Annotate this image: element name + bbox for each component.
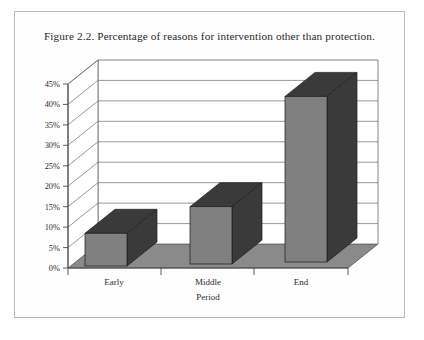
y-tick-label: 25% [45,162,60,171]
chart-y-ticks [63,84,68,268]
y-tick-label: 20% [45,182,60,191]
x-tick-label-end: End [294,277,309,287]
x-tick-label-middle: Middle [195,277,221,287]
x-tick-label-early: Early [104,277,124,287]
y-tick-label: 45% [45,80,60,89]
y-tick-label: 0% [49,264,60,273]
y-tick-label: 15% [45,203,60,212]
chart-canvas: 0% 5% 10% 15% 20% 25% 30% 35% 40% 45% [0,0,424,340]
chart-x-axis [68,268,348,275]
chart-y-tick-labels: 0% 5% 10% 15% 20% 25% 30% 35% 40% 45% [45,80,60,273]
bar-end[interactable] [285,72,357,262]
y-tick-label: 35% [45,121,60,130]
y-tick-label: 10% [45,223,60,232]
y-tick-label: 5% [49,244,60,253]
y-tick-label: 30% [45,141,60,150]
chart-x-tick-labels: Early Middle End [104,277,308,287]
x-axis-title: Period [196,292,220,302]
y-tick-label: 40% [45,100,60,109]
bar-chart: 0% 5% 10% 15% 20% 25% 30% 35% 40% 45% [0,0,424,340]
